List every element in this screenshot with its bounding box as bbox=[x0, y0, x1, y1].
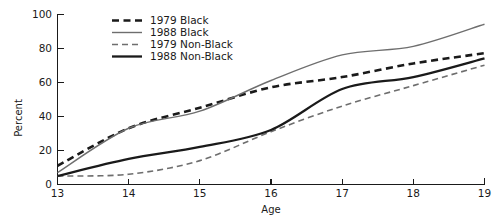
series-line-1988-black bbox=[58, 24, 485, 172]
x-tick-label-15: 15 bbox=[193, 187, 206, 199]
x-tick-label-19: 19 bbox=[478, 187, 491, 199]
legend-label-1988-non-black: 1988 Non-Black bbox=[150, 50, 234, 62]
x-tick-label-13: 13 bbox=[51, 187, 64, 199]
y-tick-label-40: 40 bbox=[39, 110, 52, 122]
y-tick-label-100: 100 bbox=[32, 8, 52, 20]
legend-label-1988-black: 1988 Black bbox=[150, 26, 209, 38]
x-tick-label-18: 18 bbox=[407, 187, 420, 199]
y-axis-title: Percent bbox=[13, 99, 24, 137]
series-layer bbox=[58, 24, 485, 176]
x-tick-label-16: 16 bbox=[264, 187, 278, 199]
x-axis-title: Age bbox=[261, 204, 280, 215]
chart-legend: 1979 Black 1988 Black 1979 Non-Black 198… bbox=[112, 14, 234, 62]
y-tick-label-80: 80 bbox=[39, 42, 52, 54]
series-line-1988-non-black bbox=[58, 58, 485, 176]
series-line-1979-black bbox=[58, 53, 485, 166]
legend-label-1979-non-black: 1979 Non-Black bbox=[150, 38, 234, 50]
legend-label-1979-black: 1979 Black bbox=[150, 14, 209, 26]
y-tick-label-20: 20 bbox=[39, 144, 52, 156]
chart-canvas: 100 80 60 40 20 0 Percent 13 14 15 16 17… bbox=[0, 0, 504, 222]
y-tick-label-60: 60 bbox=[39, 76, 52, 88]
x-tick-label-17: 17 bbox=[336, 187, 349, 199]
x-tick-label-14: 14 bbox=[122, 187, 136, 199]
line-chart: 100 80 60 40 20 0 Percent 13 14 15 16 17… bbox=[0, 0, 504, 222]
